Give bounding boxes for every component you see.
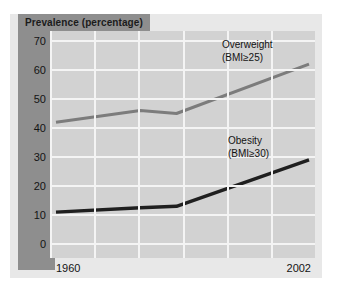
y-tick-label: 0	[40, 239, 46, 250]
grid-line-vertical	[50, 31, 52, 258]
grid-line-vertical	[271, 31, 273, 258]
chart-title-banner: Prevalence (percentage)	[18, 14, 150, 31]
grid-line-vertical	[183, 31, 185, 258]
x-tick-label: 2002	[287, 262, 311, 274]
series-label-obesity-line2: (BMI≥30)	[228, 148, 269, 161]
x-axis-tick-labels: 19602002	[50, 260, 315, 278]
series-label-overweight-line1: Overweight	[222, 39, 273, 52]
grid-line-vertical	[94, 31, 96, 258]
y-tick-label: 20	[34, 181, 46, 192]
x-tick-label: 1960	[56, 262, 80, 274]
y-tick-label: 50	[34, 94, 46, 105]
grid-line-vertical	[138, 31, 140, 258]
page-title: Prevalence (percentage)	[25, 17, 143, 28]
y-tick-label: 70	[34, 36, 46, 47]
series-label-overweight: Overweight (BMI≥25)	[222, 39, 273, 64]
y-axis-tick-labels: 010203040506070	[20, 31, 46, 258]
series-label-obesity-line1: Obesity	[228, 135, 269, 148]
y-tick-label: 60	[34, 65, 46, 76]
y-tick-label: 30	[34, 152, 46, 163]
y-tick-label: 10	[34, 210, 46, 221]
series-label-obesity: Obesity (BMI≥30)	[228, 135, 269, 160]
series-label-overweight-line2: (BMI≥25)	[222, 52, 273, 65]
y-tick-label: 40	[34, 123, 46, 134]
plot-area: Overweight (BMI≥25) Obesity (BMI≥30)	[50, 31, 315, 258]
